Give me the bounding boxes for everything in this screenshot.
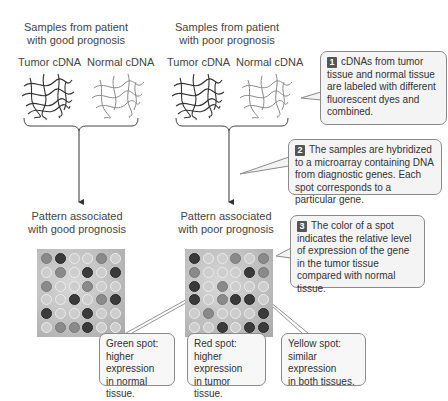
microarray-spot [217, 267, 228, 278]
microarray-spot [69, 294, 80, 305]
microarray-spot [82, 308, 93, 319]
tumor-cdna-tangle-left [22, 74, 74, 120]
pattern-line2: with good prognosis [15, 223, 139, 236]
step-1-callout: 1cDNAs from tumor tissue and normal tiss… [320, 51, 447, 125]
header-line2: with poor prognosis [165, 34, 289, 47]
microarray-spot [41, 294, 52, 305]
microarray-spot [55, 267, 66, 278]
microarray-spot [203, 322, 214, 333]
microarray-spot [82, 281, 93, 292]
microarray-spot [189, 281, 200, 292]
microarray-spot [258, 253, 269, 264]
microarray-spot [189, 308, 200, 319]
microarray-spot [217, 294, 228, 305]
microarray-spot [217, 308, 228, 319]
microarray-spot [244, 294, 255, 305]
pattern-line1: Pattern associated [164, 210, 288, 223]
microarray-spot [244, 322, 255, 333]
microarray-spot [258, 281, 269, 292]
microarray-spot [41, 281, 52, 292]
microarray-poor-prognosis [185, 249, 273, 337]
microarray-good-prognosis [37, 249, 125, 337]
brace-left [24, 118, 138, 131]
microarray-spot [41, 308, 52, 319]
microarray-spot [69, 322, 80, 333]
step-number-badge: 1 [327, 57, 337, 68]
microarray-spot [244, 281, 255, 292]
microarray-spot [69, 267, 80, 278]
microarray-spot [96, 308, 107, 319]
microarray-spot [96, 281, 107, 292]
microarray-spot [96, 322, 107, 333]
microarray-spot [55, 308, 66, 319]
microarray-spot [55, 294, 66, 305]
step-number-badge: 2 [295, 145, 305, 156]
legend-line: in tumor tissue. [194, 376, 259, 401]
microarray-spot [110, 322, 121, 333]
microarray-spot [96, 294, 107, 305]
microarray-spot [110, 267, 121, 278]
microarray-spot [203, 281, 214, 292]
legend-line: higher expression [106, 351, 168, 376]
step-3-callout: 3The color of a spot indicates the relat… [290, 215, 425, 288]
microarray-spot [258, 308, 269, 319]
legend-yellow-spot: Yellow spot: similar expression in both … [281, 333, 366, 386]
microarray-spot [82, 267, 93, 278]
microarray-spot [82, 322, 93, 333]
normal-cdna-label-left: Normal cDNA [87, 56, 154, 69]
legend-line: higher expression [194, 351, 259, 376]
legend-title: Green spot: [106, 338, 168, 351]
microarray-spot [203, 253, 214, 264]
microarray-spot [203, 267, 214, 278]
microarray-spot [110, 281, 121, 292]
microarray-spot [230, 281, 241, 292]
microarray-spot [96, 253, 107, 264]
microarray-spot [230, 322, 241, 333]
pattern-good-prognosis: Pattern associated with good prognosis [15, 210, 139, 236]
tumor-cdna-label-right: Tumor cDNA [167, 56, 230, 69]
microarray-spot [230, 267, 241, 278]
microarray-spot [244, 267, 255, 278]
step-number-badge: 3 [297, 221, 307, 232]
microarray-spot [189, 322, 200, 333]
microarray-spot [189, 253, 200, 264]
microarray-spot [217, 253, 228, 264]
microarray-spot [55, 322, 66, 333]
microarray-spot [244, 308, 255, 319]
header-line2: with good prognosis [14, 34, 138, 47]
microarray-spot [110, 308, 121, 319]
microarray-spot [189, 267, 200, 278]
microarray-spot [55, 281, 66, 292]
normal-cdna-tangle-right [240, 74, 292, 118]
microarray-spot [230, 294, 241, 305]
microarray-spot [69, 308, 80, 319]
legend-line: similar expression [288, 351, 359, 376]
header-line1: Samples from patient [14, 21, 138, 34]
microarray-spot [203, 308, 214, 319]
pattern-line1: Pattern associated [15, 210, 139, 223]
tumor-cdna-tangle-right [172, 74, 224, 120]
microarray-spot [189, 294, 200, 305]
microarray-spot [258, 267, 269, 278]
header-poor-prognosis: Samples from patient with poor prognosis [165, 21, 289, 47]
pattern-poor-prognosis: Pattern associated with poor prognosis [164, 210, 288, 236]
microarray-spot [244, 253, 255, 264]
microarray-spot [41, 267, 52, 278]
tumor-cdna-label-left: Tumor cDNA [18, 56, 81, 69]
legend-red-spot: Red spot: higher expression in tumor tis… [187, 333, 266, 386]
microarray-spot [217, 281, 228, 292]
microarray-spot [258, 322, 269, 333]
header-line1: Samples from patient [165, 21, 289, 34]
microarray-spot [55, 253, 66, 264]
microarray-spot [230, 253, 241, 264]
microarray-spot [217, 322, 228, 333]
microarray-spot [69, 253, 80, 264]
legend-line: in normal tissue. [106, 376, 168, 401]
microarray-spot [41, 253, 52, 264]
microarray-spot [203, 294, 214, 305]
legend-green-spot: Green spot: higher expression in normal … [99, 333, 175, 386]
step-2-callout: 2The samples are hybridized to a microar… [288, 139, 442, 195]
header-good-prognosis: Samples from patient with good prognosis [14, 21, 138, 47]
microarray-spot [82, 253, 93, 264]
legend-title: Red spot: [194, 338, 259, 351]
